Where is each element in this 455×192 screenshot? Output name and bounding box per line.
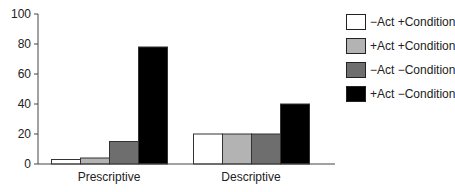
legend-swatch	[346, 14, 366, 30]
legend-item: −Act +Condition	[346, 10, 455, 34]
bar	[52, 160, 81, 165]
category-label: Descriptive	[221, 170, 281, 184]
category-label: Prescriptive	[78, 170, 141, 184]
y-tick-label: 20	[18, 127, 32, 141]
bar	[110, 142, 139, 165]
legend: −Act +Condition+Act +Condition−Act −Cond…	[346, 10, 455, 106]
bar	[194, 134, 223, 164]
legend-label: −Act −Condition	[370, 63, 455, 77]
legend-item: +Act −Condition	[346, 82, 455, 106]
bar	[281, 104, 310, 164]
legend-swatch	[346, 62, 366, 78]
y-tick-label: 0	[24, 157, 31, 171]
y-axis: 020406080100	[11, 7, 38, 171]
bar	[81, 158, 110, 164]
legend-item: −Act −Condition	[346, 58, 455, 82]
y-tick-label: 100	[11, 7, 31, 21]
legend-label: −Act +Condition	[370, 15, 455, 29]
x-axis: PrescriptiveDescriptive	[38, 164, 335, 184]
legend-label: +Act −Condition	[370, 87, 455, 101]
y-tick-label: 60	[18, 67, 32, 81]
legend-label: +Act +Condition	[370, 39, 455, 53]
legend-item: +Act +Condition	[346, 34, 455, 58]
bars	[52, 47, 310, 164]
legend-swatch	[346, 86, 366, 102]
bar	[139, 47, 168, 164]
bar	[252, 134, 281, 164]
y-tick-label: 80	[18, 37, 32, 51]
legend-swatch	[346, 38, 366, 54]
bar	[223, 134, 252, 164]
y-tick-label: 40	[18, 97, 32, 111]
